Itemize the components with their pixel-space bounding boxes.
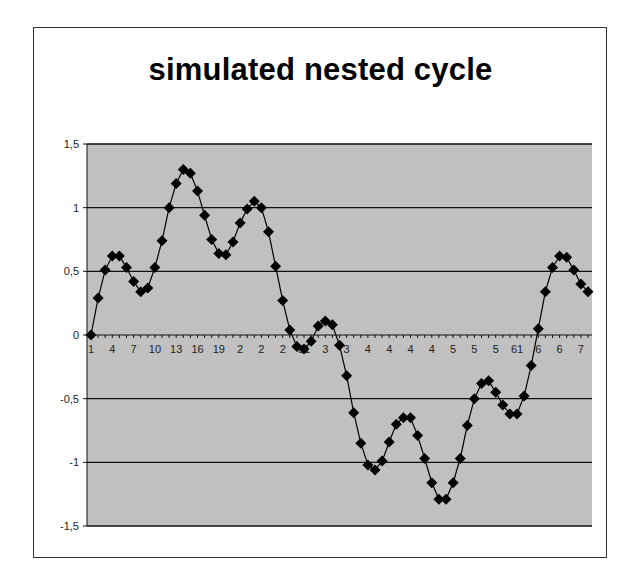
y-tick-label: 0,5 — [64, 265, 79, 277]
x-tick-label: 2 — [237, 343, 243, 355]
line-chart: 1,510,50-0,5-1-1,5 147101316192223133444… — [0, 0, 641, 587]
x-tick-label: 4 — [429, 343, 435, 355]
x-tick-label: 4 — [109, 343, 115, 355]
x-tick-label: 5 — [450, 343, 456, 355]
y-tick-label: 0 — [73, 329, 79, 341]
y-tick-label: 1,5 — [64, 138, 79, 150]
x-tick-label: 16 — [191, 343, 203, 355]
x-tick-label: 13 — [170, 343, 182, 355]
x-tick-label: 3 — [322, 343, 328, 355]
x-tick-label: 2 — [258, 343, 264, 355]
x-tick-label: 5 — [471, 343, 477, 355]
x-tick-label: 7 — [131, 343, 137, 355]
x-tick-label: 5 — [493, 343, 499, 355]
x-tick-label: 6 — [557, 343, 563, 355]
x-tick-label: 7 — [578, 343, 584, 355]
x-tick-label: 19 — [213, 343, 225, 355]
x-tick-label: 1 — [88, 343, 94, 355]
x-tick-label: 2 — [280, 343, 286, 355]
x-tick-label: 6 — [535, 343, 541, 355]
y-tick-label: -1 — [69, 456, 79, 468]
x-tick-label: 4 — [386, 343, 392, 355]
y-tick-label: -1,5 — [60, 520, 79, 532]
y-tick-label: 1 — [73, 202, 79, 214]
x-tick-label: 61 — [511, 343, 523, 355]
x-tick-label: 10 — [149, 343, 161, 355]
x-tick-label: 4 — [365, 343, 371, 355]
x-tick-label: 4 — [407, 343, 413, 355]
y-tick-label: -0,5 — [60, 393, 79, 405]
y-axis: 1,510,50-0,5-1-1,5 — [60, 138, 87, 532]
